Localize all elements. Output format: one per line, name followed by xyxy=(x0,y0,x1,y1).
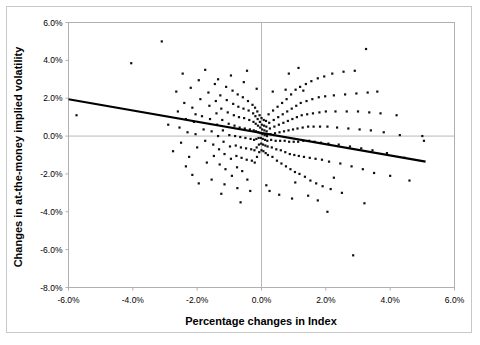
data-point xyxy=(298,155,300,157)
data-point xyxy=(317,77,319,79)
data-point xyxy=(220,108,222,110)
data-point xyxy=(278,194,280,196)
data-point xyxy=(260,143,262,145)
data-point xyxy=(288,141,290,143)
data-point xyxy=(182,73,184,75)
data-point xyxy=(256,110,258,112)
data-point xyxy=(258,114,260,116)
x-tick-label: 4.0% xyxy=(380,295,400,305)
data-point xyxy=(263,119,265,121)
data-point xyxy=(185,165,187,167)
data-point xyxy=(289,168,291,170)
data-point xyxy=(242,108,244,110)
data-point xyxy=(367,91,369,93)
data-point xyxy=(312,112,314,114)
y-tick-label: -4.0% xyxy=(40,207,63,217)
data-point xyxy=(214,83,216,85)
data-point xyxy=(314,158,316,160)
data-point xyxy=(260,149,262,151)
data-point xyxy=(266,135,268,137)
data-point xyxy=(307,126,309,128)
data-point xyxy=(175,90,177,92)
data-point xyxy=(258,143,260,145)
data-point xyxy=(227,111,229,113)
data-point xyxy=(249,138,251,140)
data-point xyxy=(285,89,287,91)
data-point xyxy=(194,113,196,115)
data-point xyxy=(263,125,265,127)
data-point xyxy=(198,79,200,81)
data-point xyxy=(347,127,349,129)
data-point xyxy=(352,254,354,256)
data-point xyxy=(310,80,312,82)
data-point xyxy=(270,139,272,141)
data-point xyxy=(324,95,326,97)
data-point xyxy=(247,100,249,102)
data-point xyxy=(230,74,232,76)
data-point xyxy=(293,141,295,143)
data-point xyxy=(305,100,307,102)
data-point xyxy=(271,146,273,148)
data-point xyxy=(219,94,221,96)
data-point xyxy=(287,120,289,122)
data-point xyxy=(273,119,275,121)
data-point xyxy=(188,156,190,158)
data-point xyxy=(161,40,163,42)
data-point xyxy=(220,193,222,195)
data-point xyxy=(172,150,174,152)
data-point xyxy=(342,71,344,73)
data-point xyxy=(278,124,280,126)
data-point xyxy=(250,148,252,150)
data-point xyxy=(208,105,210,107)
data-point xyxy=(215,100,217,102)
data-point xyxy=(226,99,228,101)
data-point xyxy=(236,166,238,168)
data-point xyxy=(309,179,311,181)
data-point xyxy=(249,190,251,192)
data-point xyxy=(350,165,352,167)
data-point xyxy=(298,173,300,175)
data-point xyxy=(228,123,230,125)
data-point xyxy=(256,146,258,148)
y-tick-label: 4.0% xyxy=(43,55,63,65)
data-point xyxy=(213,155,215,157)
data-point xyxy=(325,110,327,112)
data-point xyxy=(309,157,311,159)
data-point xyxy=(284,151,286,153)
data-point xyxy=(177,110,179,112)
data-point xyxy=(365,48,367,50)
data-point xyxy=(248,109,250,111)
data-point xyxy=(246,159,248,161)
data-point xyxy=(264,139,266,141)
data-point xyxy=(389,175,391,177)
data-point xyxy=(254,161,256,163)
data-point xyxy=(251,104,253,106)
data-point xyxy=(362,168,364,170)
data-point xyxy=(323,75,325,77)
data-point xyxy=(256,88,258,90)
data-point xyxy=(260,137,262,139)
data-point xyxy=(379,112,381,114)
data-point xyxy=(230,158,232,160)
data-point xyxy=(408,179,410,181)
data-point xyxy=(291,197,293,199)
data-point xyxy=(243,117,245,119)
data-point xyxy=(257,118,259,120)
data-point xyxy=(209,118,211,120)
data-point xyxy=(239,136,241,138)
data-point xyxy=(130,62,132,64)
y-tick-label: 2.0% xyxy=(43,93,63,103)
data-point xyxy=(290,93,292,95)
data-point xyxy=(285,165,287,167)
data-point xyxy=(292,128,294,130)
data-point xyxy=(244,137,246,139)
data-point xyxy=(248,119,250,121)
data-point xyxy=(296,116,298,118)
data-point xyxy=(241,170,243,172)
scatter-chart-svg: -8.0%-6.0%-4.0%-2.0%0.0%2.0%4.0%6.0% -6.… xyxy=(0,0,480,345)
data-point xyxy=(224,168,226,170)
data-point xyxy=(75,114,77,116)
data-point xyxy=(217,135,219,137)
data-point xyxy=(278,131,280,133)
data-point xyxy=(262,150,264,152)
